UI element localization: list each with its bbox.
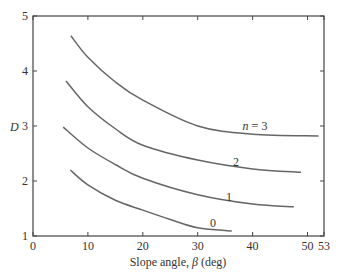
- x-tick-label: 40: [247, 239, 259, 253]
- y-tick-label: 5: [22, 9, 28, 23]
- x-tick-label: 20: [137, 239, 149, 253]
- x-tick-label: 53: [318, 239, 330, 253]
- curve-label-n0: 0: [210, 216, 216, 230]
- y-axis-label: D: [9, 120, 19, 134]
- curves: [63, 36, 318, 231]
- plot-frame: [33, 16, 324, 236]
- y-tick-label: 1: [22, 229, 28, 243]
- chart: 010203040505312345 n = 3 2 1 0 D Slope a…: [0, 0, 341, 280]
- curve-n1: [63, 127, 294, 207]
- curve-n3: [71, 36, 319, 136]
- x-axis-label: Slope angle, β (deg): [130, 255, 227, 269]
- x-tick-label: 50: [302, 239, 314, 253]
- curve-label-n2: 2: [233, 155, 239, 169]
- x-tick-label: 0: [30, 239, 36, 253]
- curve-n0: [70, 170, 231, 231]
- y-tick-label: 2: [22, 174, 28, 188]
- curve-label-n1: 1: [226, 190, 232, 204]
- y-tick-label: 4: [22, 64, 28, 78]
- curve-label-n3: n = 3: [243, 119, 268, 133]
- y-tick-label: 3: [22, 119, 28, 133]
- x-tick-label: 30: [192, 239, 204, 253]
- x-tick-label: 10: [82, 239, 94, 253]
- axes: [33, 16, 324, 236]
